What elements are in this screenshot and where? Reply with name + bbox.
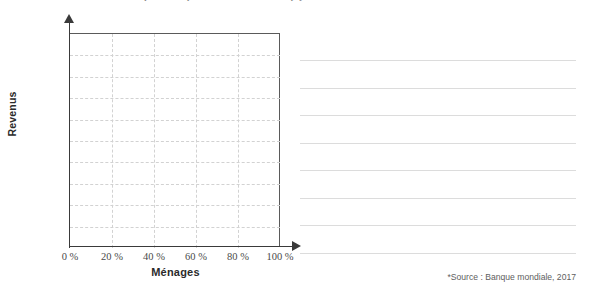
y-axis-line xyxy=(69,22,70,248)
gridline-vertical xyxy=(154,34,155,248)
x-tick-label: 60 % xyxy=(172,251,220,262)
gridline-horizontal xyxy=(70,205,280,206)
ruled-line xyxy=(300,143,576,144)
x-tick-label: 40 % xyxy=(130,251,178,262)
plot-area xyxy=(70,33,280,247)
ruled-line xyxy=(300,115,576,116)
x-tick-label: 20 % xyxy=(88,251,136,262)
y-axis-title: Revenus xyxy=(6,79,18,149)
gridline-horizontal xyxy=(70,98,280,99)
y-axis-arrow-icon xyxy=(64,14,74,23)
gridline-vertical xyxy=(112,34,113,248)
answer-ruled-lines xyxy=(300,0,576,296)
gridline-horizontal xyxy=(70,120,280,121)
ruled-line xyxy=(300,225,576,226)
ruled-line xyxy=(300,253,576,254)
gridline-horizontal xyxy=(70,162,280,163)
ruled-line xyxy=(300,170,576,171)
x-axis-line xyxy=(69,246,293,247)
x-axis-title: Ménages xyxy=(70,266,281,278)
gridline-vertical xyxy=(196,34,197,248)
gridline-horizontal xyxy=(70,77,280,78)
x-tick-label: 100 % xyxy=(256,251,304,262)
gridline-horizontal xyxy=(70,184,280,185)
x-tick-label: 80 % xyxy=(214,251,262,262)
source-note: *Source : Banque mondiale, 2017 xyxy=(300,272,576,282)
x-tick-label: 0 % xyxy=(46,251,94,262)
ruled-line xyxy=(300,60,576,61)
gridline-horizontal xyxy=(70,227,280,228)
gridline-horizontal xyxy=(70,141,280,142)
gridline-vertical xyxy=(238,34,239,248)
chart-figure: 100 % 90 % 80 % 70 % 60 % 50 % 40 % 30 %… xyxy=(0,0,310,296)
ruled-line xyxy=(300,88,576,89)
gridline-horizontal xyxy=(70,55,280,56)
ruled-line xyxy=(300,198,576,199)
